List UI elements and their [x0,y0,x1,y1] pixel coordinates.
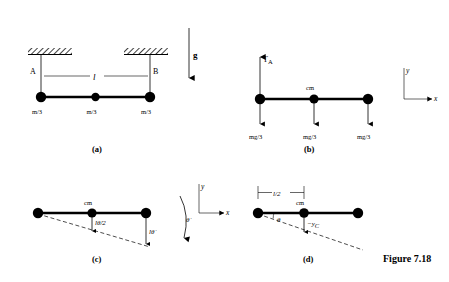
panel-b: TA cm mg/3 mg/3 mg/3 y x [249,55,438,154]
mass-label-left-a: m/3 [32,108,42,115]
label-angle-theta: θ [277,216,281,224]
weight-label-left: mg/3 [249,133,262,140]
mass-label-middle-a: m/3 [87,108,97,115]
mass-right-d [353,208,363,218]
mass-label-right-a: m/3 [141,108,151,115]
weight-label-middle: mg/3 [303,133,316,140]
panel-label-d: (d) [303,254,314,264]
panel-c: cm lθ̇/2 lθ̇ θ̇ y x (c) [33,182,230,264]
panel-label-b: (b) [304,144,315,154]
half-length-dimension [258,186,304,199]
axis-label-x-b: x [433,94,438,103]
dashed-rotated-rod-c [38,214,150,247]
label-cm-b: cm [306,84,314,91]
panel-label-a: (a) [92,144,102,154]
label-displacement-yc: −yC [307,220,320,229]
label-tension: TA [263,55,273,65]
mass-right-a [145,92,155,102]
label-gravity: g [193,50,198,60]
panel-d: l/2 cm θ −yC (d) [253,186,363,264]
ceiling-support-right [124,48,168,55]
panel-label-c: (c) [92,254,102,264]
mass-middle-a [91,93,99,101]
ceiling-support-left [28,48,72,55]
label-velocity-end: lθ̇ [149,228,156,236]
label-half-length: l/2 [273,190,281,198]
label-cm-d: cm [296,199,304,206]
axis-label-y-b: y [405,66,410,75]
label-angular-velocity-c: θ̇ [186,216,191,224]
figure-7-18: A B l m/3 m/3 m/3 g (a) [0,0,449,282]
label-cm-c: cm [84,199,92,206]
mass-left-c [33,208,43,218]
mass-left-a [36,92,46,102]
weight-label-right: mg/3 [357,133,370,140]
axis-label-x-c: x [225,208,230,217]
axis-label-y-c: y [200,182,205,191]
mass-left-d [253,208,263,218]
figure-caption: Figure 7.18 [383,253,431,264]
panel-a: A B l m/3 m/3 m/3 g (a) [28,28,198,154]
label-length-l: l [93,72,96,82]
figure-canvas: A B l m/3 m/3 m/3 g (a) [0,0,449,282]
label-point-a: A [30,67,36,76]
label-point-b: B [153,67,158,76]
label-velocity-cm: lθ̇/2 [95,219,106,227]
